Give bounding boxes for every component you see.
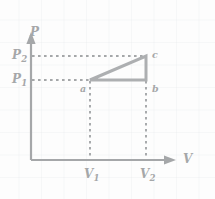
process-cycle-path [90,56,146,80]
volume-tick-v2-subscript: 2 [150,173,156,183]
pv-diagram-figure: P V P2 P1 V1 V2 a b c [0,0,215,199]
volume-tick-v1-subscript: 1 [94,173,100,183]
pressure-tick-p2-base: P [12,48,21,62]
point-label-b: b [152,84,159,94]
volume-axis-arrow-icon [164,155,176,164]
volume-tick-v1-base: V [84,167,93,181]
point-label-a: a [80,84,86,94]
volume-tick-v2: V2 [140,168,156,182]
point-label-c: c [152,50,158,60]
volume-axis-label: V [183,153,192,165]
pressure-tick-p2-subscript: 2 [21,54,27,64]
pressure-tick-p1-subscript: 1 [21,78,27,88]
pressure-tick-p2: P2 [12,49,27,63]
volume-tick-v1: V1 [84,168,100,182]
volume-tick-v2-base: V [140,167,149,181]
pressure-tick-p1-base: P [12,72,21,86]
pressure-tick-p1: P1 [12,73,27,87]
pressure-axis-label: P [30,26,39,38]
